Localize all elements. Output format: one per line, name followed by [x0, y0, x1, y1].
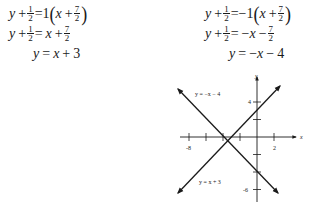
- tick-label-y-pos: 4: [248, 99, 251, 105]
- line-label-neg-x-minus-4: y = −x − 4: [195, 91, 220, 97]
- tick-label-y-neg: -6: [243, 187, 248, 193]
- x-axis-label: x: [299, 134, 303, 140]
- graph: y x -8 2 4 -6 y = −x − 4 y = x + 3: [0, 0, 319, 203]
- tick-label-x-neg: -8: [186, 145, 191, 151]
- line-y-equals-x-plus-3: [178, 86, 280, 193]
- tick-label-x-pos: 2: [273, 145, 276, 151]
- line-label-x-plus-3: y = x + 3: [199, 179, 221, 185]
- y-axis-label: y: [254, 73, 258, 79]
